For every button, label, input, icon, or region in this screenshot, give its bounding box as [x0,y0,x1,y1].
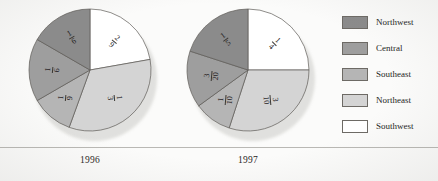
pie-body: 2913191616 [28,8,152,132]
legend-label: Northwest [376,17,414,27]
fraction-denominator: 3 [104,95,114,102]
pie-chart-1997: 1431011032015 [186,8,310,132]
legend-swatch-central [342,42,368,55]
legend-swatch-southwest [342,120,368,133]
legend-item: Northeast [342,87,438,113]
fraction-denominator: 20 [211,71,221,82]
chart-title-1996: 1996 [28,155,152,165]
legend-swatch-southeast [342,68,368,81]
fraction-numerator: 1 [114,94,123,101]
legend-label: Northeast [376,95,411,105]
baseline-rule [0,147,438,148]
legend-label: Central [376,43,403,53]
legend-swatch-northeast [342,94,368,107]
legend-label: Southwest [376,121,414,131]
fraction: 110 [217,94,236,106]
legend-item: Southeast [342,61,438,87]
fraction: 310 [260,94,279,106]
figure-page: 2913191616 1996 1431011032015 1997 North… [0,0,438,181]
slice-value-label: 320 [203,70,222,82]
legend-item: Southwest [342,113,438,139]
fraction-numerator: 3 [270,94,279,105]
chart-title-1997: 1997 [186,155,310,165]
legend: NorthwestCentralSoutheastNortheastSouthw… [342,9,438,139]
pie-body: 1431011032015 [186,8,310,132]
pie-chart-1996: 2913191616 [28,8,152,132]
legend-item: Northwest [342,9,438,35]
legend-label: Southeast [376,69,411,79]
fraction-denominator: 6 [53,67,63,74]
fraction-denominator: 9 [66,95,76,102]
legend-swatch-northwest [342,16,368,29]
fraction-denominator: 10 [226,95,236,106]
fraction-denominator: 10 [260,95,270,106]
slice-value-label: 310 [260,94,279,106]
fraction: 320 [203,70,222,82]
legend-item: Central [342,35,438,61]
slice-value-label: 110 [217,94,236,106]
